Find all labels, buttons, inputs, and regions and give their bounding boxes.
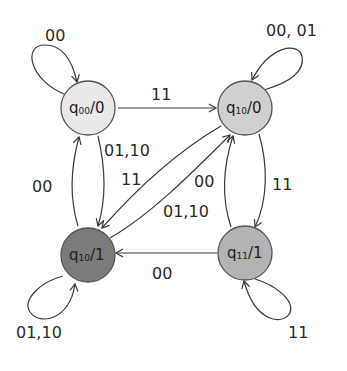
edge-s10b-s00 [72, 137, 79, 226]
edge-label: 11 [288, 323, 308, 342]
edge-label: 00 [152, 264, 172, 283]
state-q11: q11/1 [218, 226, 272, 280]
edge-s10a-self [252, 48, 302, 90]
edge-label: 00, 01 [266, 21, 317, 40]
edge-label: 00 [45, 26, 65, 45]
state-q00: q00/0 [61, 81, 115, 135]
edge-label: 00 [32, 177, 52, 196]
state-q10-out1: q10/1 [61, 228, 115, 282]
state-q10-out0: q10/0 [218, 81, 272, 135]
edge-s10b-self [28, 276, 75, 319]
edge-s11-self [244, 279, 291, 320]
edge-label: 01,10 [163, 202, 209, 221]
edge-label: 11 [151, 85, 171, 104]
edge-label: 11 [272, 175, 292, 194]
edge-s10a-s11 [255, 134, 265, 227]
edge-s00-self [32, 45, 77, 94]
edge-s11-s10a [224, 136, 233, 227]
edge-label: 01,10 [104, 141, 150, 160]
edge-label: 01,10 [16, 323, 62, 342]
edge-label: 00 [194, 172, 214, 191]
state-diagram: 00 11 01,10 00 00, 01 11 01,10 00 11 00 … [0, 0, 347, 371]
edge-label: 11 [121, 170, 141, 189]
